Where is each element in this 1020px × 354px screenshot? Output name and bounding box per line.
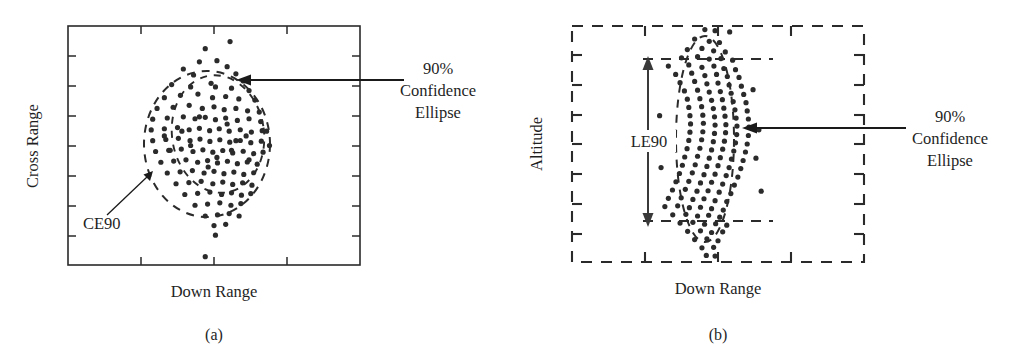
scatter-point [251,170,256,175]
scatter-point [724,223,729,228]
scatter-point [711,106,716,111]
scatter-point [267,143,272,148]
scatter-point [712,28,717,33]
scatter-point [227,39,232,44]
scatter-point [711,48,716,53]
scatter-point [217,126,222,131]
scatter-point [743,149,748,154]
scatter-point [679,55,684,60]
scatter-point [711,64,716,69]
scatter-point [240,180,245,185]
scatter-point [738,166,743,171]
scatter-point [707,89,712,94]
scatter-point [150,117,155,122]
scatter-point [734,123,739,128]
panel-a-y-axis-label: Cross Range [23,104,42,188]
scatter-point [697,96,702,101]
scatter-point [158,160,163,165]
scatter-point [227,211,232,216]
scatter-point [246,157,251,162]
scatter-point [720,97,725,102]
scatter-point [677,171,682,176]
scatter-point [236,96,241,101]
scatter-point [176,136,181,141]
scatter-point [705,188,710,193]
scatter-point [258,119,263,124]
scatter-point [707,56,712,61]
scatter-point [741,92,746,97]
scatter-point [727,165,732,170]
scatter-point [741,158,746,163]
scatter-point [237,213,242,218]
scatter-point [211,223,216,228]
scatter-point [213,84,218,89]
scatter-point [727,82,732,87]
scatter-point [162,133,167,138]
scatter-point [162,126,167,131]
panel-a-scatter-points [149,39,272,259]
scatter-point [211,104,216,109]
scatter-point [673,72,678,77]
scatter-point [698,228,703,233]
scatter-point [686,179,691,184]
scatter-point [188,84,193,89]
scatter-point [700,129,705,134]
scatter-point [745,108,750,113]
scatter-point [732,182,737,187]
panel-a-y-ticks-right [352,56,360,236]
scatter-point [736,75,741,80]
scatter-point [695,54,700,59]
scatter-point [200,106,205,111]
scatter-point [203,115,208,120]
scatter-point [693,162,698,167]
scatter-point [733,67,738,72]
scatter-point [724,199,729,204]
scatter-point [238,127,243,132]
scatter-point [721,106,726,111]
scatter-point [149,127,154,132]
scatter-point [702,222,707,227]
scatter-point [711,245,716,250]
scatter-point [214,155,219,160]
scatter-point [248,140,253,145]
scatter-point [220,148,225,153]
scatter-point [178,169,183,174]
scatter-point [712,114,717,119]
scatter-point [231,169,236,174]
scatter-point [211,169,216,174]
scatter-point [750,87,755,92]
scatter-point [689,71,694,76]
scatter-point [182,192,187,197]
scatter-point [690,170,695,175]
scatter-point [187,127,192,132]
scatter-point [682,154,687,159]
scatter-point [217,137,222,142]
scatter-point [227,129,232,134]
scatter-point [238,201,243,206]
scatter-point [677,80,682,85]
panel-a-caption: (a) [205,326,223,344]
scatter-point [677,220,682,225]
panel-b-x-ticks-bottom [645,252,791,262]
scatter-point [720,147,725,152]
scatter-point [154,106,159,111]
scatter-point [692,79,697,84]
scatter-point [179,129,184,134]
scatter-point [213,117,218,122]
scatter-point [745,141,750,146]
scatter-point [203,46,208,51]
ce90-label: CE90 [83,214,121,233]
scatter-point [707,156,712,161]
scatter-point [207,128,212,133]
scatter-point [203,213,208,218]
scatter-point [220,179,225,184]
scatter-point [684,146,689,151]
scatter-point [228,203,233,208]
scatter-point [207,139,212,144]
scatter-point [241,149,246,154]
scatter-point [171,105,176,110]
scatter-point [187,103,192,108]
scatter-point [712,172,717,177]
scatter-point [698,180,703,185]
scatter-point [694,189,699,194]
